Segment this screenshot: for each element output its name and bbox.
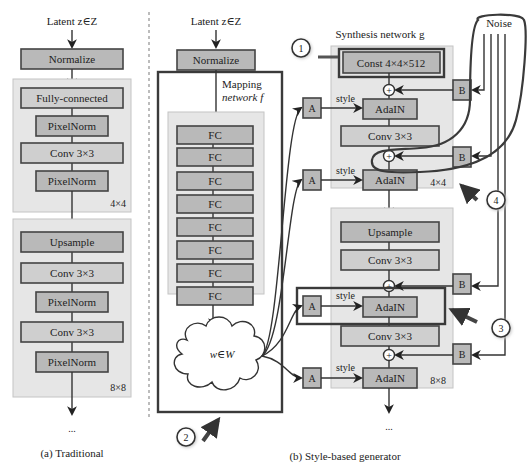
fc-label: FC bbox=[208, 175, 221, 187]
stylegan-diagram: Latent z∈Z Normalize Fully-connected Pix… bbox=[0, 0, 532, 471]
synth-res-8x8: 8×8 bbox=[430, 375, 446, 386]
noise-b-label: B bbox=[459, 349, 466, 360]
adain-label: AdaIN bbox=[375, 372, 405, 384]
const-label: Const 4×4×512 bbox=[357, 57, 425, 69]
trad-pixelnorm-label: PixelNorm bbox=[48, 175, 97, 187]
style-latent-label: Latent z∈Z bbox=[191, 15, 242, 27]
trad-upsample-label: Upsample bbox=[50, 236, 95, 248]
trad-caption: (a) Traditional bbox=[40, 447, 103, 460]
trad-res-8x8: 8×8 bbox=[110, 382, 126, 393]
adain-label: AdaIN bbox=[375, 301, 405, 313]
callout-3-arrow bbox=[452, 310, 477, 322]
synthesis-network: Synthesis network g Const 4×4×512 + AdaI… bbox=[262, 15, 526, 432]
trad-normalize-label: Normalize bbox=[49, 53, 96, 65]
affine-a-label: A bbox=[308, 175, 316, 186]
noise-b-label: B bbox=[459, 279, 466, 290]
fc-label: FC bbox=[208, 129, 221, 141]
affine-a-label: A bbox=[308, 103, 316, 114]
style-label: style bbox=[336, 362, 355, 373]
mapping-subtitle: network f bbox=[222, 91, 265, 103]
callout-4-label: 4 bbox=[494, 195, 499, 206]
fc-label: FC bbox=[208, 151, 221, 163]
callout-3-label: 3 bbox=[499, 323, 504, 334]
noise-line-2 bbox=[473, 34, 491, 156]
adain-label: AdaIN bbox=[375, 174, 405, 186]
affine-a-label: A bbox=[308, 373, 316, 384]
conv-label: Conv 3×3 bbox=[368, 330, 412, 342]
add-symbol: + bbox=[386, 281, 392, 292]
fc-label: FC bbox=[208, 244, 221, 256]
adain-label: AdaIN bbox=[375, 103, 405, 115]
noise-line-1 bbox=[473, 34, 484, 90]
traditional-network: Latent z∈Z Normalize Fully-connected Pix… bbox=[13, 15, 131, 460]
style-label: style bbox=[336, 165, 355, 176]
upsample-label: Upsample bbox=[368, 226, 413, 238]
noise-b-label: B bbox=[459, 85, 466, 96]
style-normalize-label: Normalize bbox=[193, 54, 240, 66]
synth-ellipsis: ... bbox=[385, 421, 393, 432]
synthesis-title: Synthesis network g bbox=[335, 28, 425, 40]
add-symbol: + bbox=[386, 85, 392, 96]
style-caption: (b) Style-based generator bbox=[289, 450, 401, 463]
synth-res-4x4: 4×4 bbox=[430, 177, 446, 188]
trad-pixelnorm-label: PixelNorm bbox=[48, 120, 97, 132]
trad-pixelnorm-label: PixelNorm bbox=[48, 356, 97, 368]
trad-latent-label: Latent z∈Z bbox=[47, 15, 98, 27]
mapping-title: Mapping bbox=[222, 78, 262, 90]
trad-pixelnorm-label: PixelNorm bbox=[48, 296, 97, 308]
style-label: style bbox=[336, 93, 355, 104]
affine-a-label: A bbox=[308, 301, 316, 312]
noise-b-label: B bbox=[459, 152, 466, 163]
trad-fc-label: Fully-connected bbox=[36, 92, 108, 104]
fc-label: FC bbox=[208, 221, 221, 233]
trad-res-4x4: 4×4 bbox=[110, 198, 126, 209]
noise-label: Noise bbox=[486, 17, 512, 29]
trad-conv-label: Conv 3×3 bbox=[50, 326, 94, 338]
fc-label: FC bbox=[208, 198, 221, 210]
fc-label: FC bbox=[208, 267, 221, 279]
conv-label: Conv 3×3 bbox=[368, 130, 412, 142]
trad-ellipsis: ... bbox=[68, 423, 76, 434]
callout-2-label: 2 bbox=[184, 432, 189, 443]
callout-4-arrow bbox=[462, 186, 477, 200]
callout-1-label: 1 bbox=[299, 43, 304, 54]
add-symbol: + bbox=[386, 151, 392, 162]
noise-line-3 bbox=[473, 34, 498, 286]
conv-label: Conv 3×3 bbox=[368, 254, 412, 266]
style-label: style bbox=[336, 290, 355, 301]
callout-2-arrow bbox=[203, 420, 218, 441]
add-symbol: + bbox=[386, 350, 392, 361]
trad-conv-label: Conv 3×3 bbox=[50, 267, 94, 279]
fc-label: FC bbox=[208, 290, 221, 302]
w-label: w∈W bbox=[210, 348, 235, 360]
trad-conv-label: Conv 3×3 bbox=[50, 147, 94, 159]
